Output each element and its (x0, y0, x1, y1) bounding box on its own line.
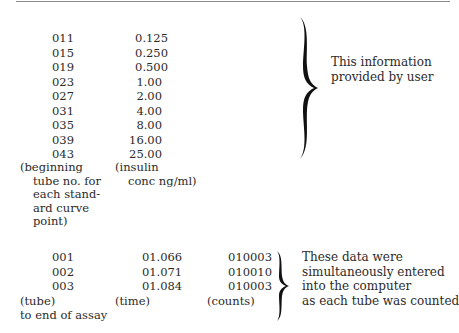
tube-column-label: (beginning tube no. for each stand- ard … (20, 161, 101, 229)
insulin-conc: 4.00 (118, 104, 162, 119)
insulin-conc: 0.500 (118, 60, 168, 75)
insulin-conc: 16.00 (118, 133, 162, 148)
counts-value: 010003 (220, 279, 272, 294)
computer-entry-note: These data were simultaneously entered i… (302, 250, 459, 308)
note-line: These data were (302, 250, 459, 265)
table-row: 027 2.00 (0, 89, 455, 104)
insulin-conc: 0.250 (118, 46, 168, 61)
right-brace-large (296, 16, 326, 160)
note-line: as each tube was counted (302, 294, 459, 309)
insulin-conc: 8.00 (118, 118, 162, 133)
counts-value: 010010 (220, 265, 272, 280)
tube-number: 002 (40, 265, 86, 280)
table-row: 035 8.00 (0, 118, 455, 133)
time-value: 01.084 (137, 279, 187, 294)
top-rule (16, 1, 450, 2)
insulin-conc: 0.125 (118, 31, 168, 46)
time-value: 01.071 (137, 265, 187, 280)
tube-number: 027 (40, 89, 86, 104)
counts-value: 010003 (220, 250, 272, 265)
tube-number: 039 (40, 133, 86, 148)
tube-number: 031 (40, 104, 86, 119)
table-row: to end of assay (0, 308, 455, 323)
note-line: simultaneously entered (302, 265, 459, 280)
tube-number: 019 (40, 60, 86, 75)
label-line: (beginning (20, 161, 101, 175)
counts-column-label: (counts) (207, 294, 255, 309)
label-line: each stand- (20, 188, 101, 202)
note-line: provided by user (331, 70, 434, 85)
tube-number: 003 (40, 279, 86, 294)
tube-number: 015 (40, 46, 86, 61)
tube-number: 035 (40, 118, 86, 133)
insulin-conc: 2.00 (118, 89, 162, 104)
label-line: conc ng/ml) (115, 175, 197, 189)
table-row: 011 0.125 (0, 31, 455, 46)
label-line: ard curve (20, 202, 101, 216)
label-line: tube no. for (20, 175, 101, 189)
tube-column-sublabel: to end of assay (20, 308, 107, 323)
note-line: This information (331, 55, 434, 70)
tube-number: 001 (40, 250, 86, 265)
table-row: 031 4.00 (0, 104, 455, 119)
tube-number: 011 (40, 31, 86, 46)
conc-column-label: (insulin conc ng/ml) (115, 161, 197, 188)
label-line: (insulin (115, 161, 197, 175)
tube-number: 023 (40, 75, 86, 90)
note-line: into the computer (302, 279, 459, 294)
right-brace-small (274, 250, 292, 322)
user-info-note: This information provided by user (331, 55, 434, 84)
table-row: 039 16.00 (0, 133, 455, 148)
tube-column-label: (tube) (20, 294, 55, 309)
label-line: point) (20, 215, 101, 229)
insulin-conc: 1.00 (118, 75, 162, 90)
time-column-label: (time) (115, 294, 150, 309)
time-value: 01.066 (137, 250, 187, 265)
